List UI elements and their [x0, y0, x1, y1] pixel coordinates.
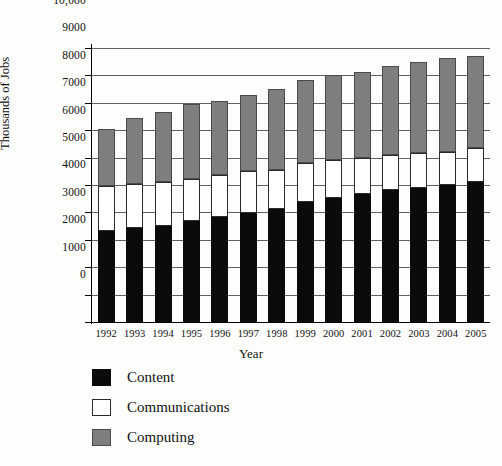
bar-segment-communications[interactable]	[240, 171, 257, 213]
content-swatch	[92, 369, 111, 386]
bar-segment-computing[interactable]	[297, 80, 314, 164]
bar-group[interactable]	[240, 48, 257, 322]
y-axis-tick	[85, 48, 92, 49]
plot-area	[92, 48, 490, 322]
y-axis-tick-label: 6000	[62, 104, 86, 116]
bar-segment-content[interactable]	[297, 202, 314, 322]
computing-swatch	[92, 429, 111, 446]
y-axis-tick-label: 2000	[62, 213, 86, 225]
bar-segment-computing[interactable]	[126, 118, 143, 184]
gridline	[92, 295, 490, 296]
bar-segment-communications[interactable]	[354, 158, 371, 194]
communications-swatch	[92, 399, 111, 416]
x-axis-title: Year	[0, 346, 502, 362]
bar-segment-computing[interactable]	[183, 104, 200, 179]
bar-segment-communications[interactable]	[467, 148, 484, 182]
gridline	[92, 48, 490, 49]
bar-group[interactable]	[297, 48, 314, 322]
bar-group[interactable]	[410, 48, 427, 322]
legend-item-label: Content	[127, 369, 175, 386]
bar-segment-communications[interactable]	[325, 160, 342, 198]
y-axis-tick-label: 5000	[62, 131, 86, 143]
y-axis-tick-label: 8000	[62, 49, 86, 61]
bar-segment-content[interactable]	[240, 213, 257, 322]
bar-segment-content[interactable]	[155, 226, 172, 322]
bar-segment-content[interactable]	[354, 194, 371, 322]
bar-group[interactable]	[155, 48, 172, 322]
stacked-bar-chart: Thousands of Jobs 10,0009000800070006000…	[0, 0, 502, 466]
bar-segment-communications[interactable]	[98, 186, 115, 231]
bar-segment-content[interactable]	[382, 190, 399, 322]
bar-segment-content[interactable]	[439, 185, 456, 322]
bar-segment-computing[interactable]	[410, 62, 427, 154]
bar-segment-communications[interactable]	[297, 163, 314, 202]
y-axis-tick-label: 9000	[62, 21, 86, 33]
bar-segment-computing[interactable]	[382, 66, 399, 155]
bar-group[interactable]	[126, 48, 143, 322]
y-axis-tick	[85, 240, 92, 241]
bar-segment-communications[interactable]	[211, 175, 228, 217]
bar-segment-communications[interactable]	[382, 155, 399, 190]
x-axis-tick-label: 2005	[456, 328, 496, 339]
bar-segment-computing[interactable]	[354, 72, 371, 157]
gridline	[92, 212, 490, 213]
y-axis-tick	[85, 103, 92, 104]
legend-item[interactable]: Communications	[92, 392, 230, 422]
y-axis-tick-label: 0	[80, 268, 86, 280]
gridline	[92, 240, 490, 241]
bar-segment-communications[interactable]	[126, 184, 143, 229]
bar-segment-computing[interactable]	[268, 89, 285, 170]
y-axis-tick-labels: 10,0009000800070006000500040003000200010…	[0, 0, 86, 274]
gridline	[92, 185, 490, 186]
bar-segment-content[interactable]	[467, 182, 484, 322]
bar-segment-computing[interactable]	[467, 56, 484, 148]
bar-segment-content[interactable]	[126, 228, 143, 322]
gridline	[92, 267, 490, 268]
bar-group[interactable]	[268, 48, 285, 322]
bar-group[interactable]	[354, 48, 371, 322]
gridline	[92, 103, 490, 104]
bar-segment-computing[interactable]	[439, 58, 456, 152]
y-axis-tick	[85, 75, 92, 76]
bar-segment-content[interactable]	[268, 209, 285, 322]
bar-segment-communications[interactable]	[439, 152, 456, 185]
bar-segment-content[interactable]	[183, 221, 200, 322]
bar-segment-content[interactable]	[98, 231, 115, 322]
y-axis-tick	[85, 212, 92, 213]
bar-segment-computing[interactable]	[98, 129, 115, 186]
y-axis-tick-label: 10,000	[53, 0, 86, 6]
y-axis-tick	[85, 295, 92, 296]
bar-segment-content[interactable]	[325, 198, 342, 322]
bar-segment-computing[interactable]	[155, 112, 172, 181]
bar-group[interactable]	[98, 48, 115, 322]
bar-segment-content[interactable]	[410, 188, 427, 322]
y-axis-tick	[85, 322, 92, 323]
bar-group[interactable]	[211, 48, 228, 322]
legend-item-label: Computing	[127, 429, 195, 446]
y-axis-tick	[85, 158, 92, 159]
y-axis-tick	[85, 130, 92, 131]
x-axis-line	[91, 322, 490, 323]
bar-group[interactable]	[467, 48, 484, 322]
y-axis-tick-label: 1000	[62, 241, 86, 253]
bar-segment-communications[interactable]	[410, 153, 427, 187]
legend-item[interactable]: Computing	[92, 422, 230, 452]
bar-group[interactable]	[382, 48, 399, 322]
chart-legend: ContentCommunicationsComputing	[92, 362, 230, 452]
bar-segment-computing[interactable]	[240, 95, 257, 171]
y-axis-tick-label: 7000	[62, 76, 86, 88]
legend-item[interactable]: Content	[92, 362, 230, 392]
y-axis-tick-label: 3000	[62, 186, 86, 198]
bar-segment-communications[interactable]	[155, 182, 172, 226]
bar-group[interactable]	[325, 48, 342, 322]
bar-segment-computing[interactable]	[211, 101, 228, 175]
y-axis-tick	[85, 267, 92, 268]
bar-group[interactable]	[439, 48, 456, 322]
y-axis-tick	[85, 185, 92, 186]
bar-segment-content[interactable]	[211, 217, 228, 322]
bar-segment-communications[interactable]	[268, 170, 285, 209]
bar-segment-computing[interactable]	[325, 75, 342, 160]
gridline	[92, 130, 490, 131]
bar-segment-communications[interactable]	[183, 179, 200, 221]
bar-group[interactable]	[183, 48, 200, 322]
